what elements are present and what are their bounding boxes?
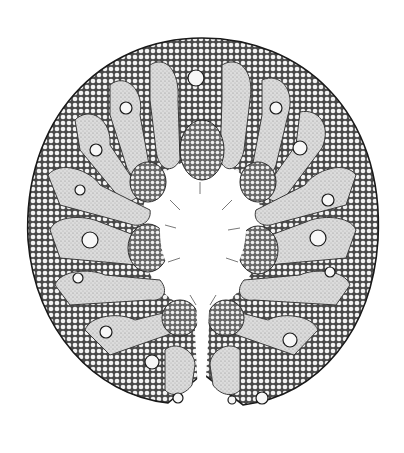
- leaf-cross-section-illustration: [0, 0, 404, 453]
- illustration-canvas: [0, 0, 404, 453]
